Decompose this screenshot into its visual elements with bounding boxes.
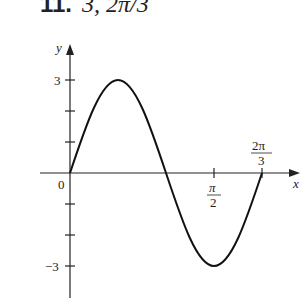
x-tick-label-2pi-over-3: 2π 3 [251,138,272,168]
y-tick-label-neg3: −3 [45,259,59,274]
origin-label: 0 [58,177,65,192]
y-axis-label: y [54,40,62,55]
y-axis-arrow-icon [66,44,74,55]
svg-text:π: π [209,180,216,195]
sine-graph: y x 0 3 −3 π 2 2π 3 [0,0,307,301]
svg-text:3: 3 [258,153,265,168]
svg-text:2: 2 [210,195,217,210]
svg-text:2π: 2π [252,138,266,153]
y-tick-label-3: 3 [54,73,61,88]
x-tick-label-pi-over-2: π 2 [207,180,221,210]
x-axis-label: x [292,176,299,191]
